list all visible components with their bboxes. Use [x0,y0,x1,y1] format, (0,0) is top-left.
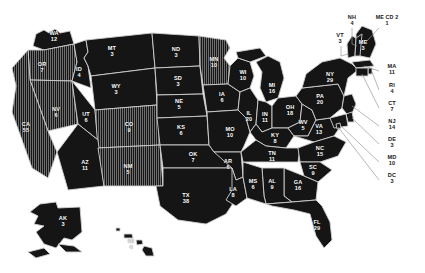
state-label-WI[interactable]: WI10 [239,70,246,82]
electoral-votes-GA: 16 [294,186,303,192]
state-label-MO[interactable]: MO10 [225,127,234,139]
state-label-WY[interactable]: WY3 [111,84,120,96]
state-label-AK[interactable]: AK3 [59,216,67,228]
state-label-ID[interactable]: ID4 [76,67,82,79]
electoral-votes-OH: 18 [286,111,295,117]
state-label-MD[interactable]: MD10 [388,155,397,167]
state-label-UT[interactable]: UT6 [82,112,90,124]
state-label-OR[interactable]: OR7 [38,62,47,74]
electoral-votes-OR: 7 [38,68,47,74]
electoral-votes-ND: 3 [172,53,180,59]
state-label-AL[interactable]: AL9 [268,179,276,191]
state-label-AR[interactable]: AR6 [224,159,232,171]
electoral-votes-AZ: 11 [81,166,89,172]
state-label-AZ[interactable]: AZ11 [81,160,89,172]
electoral-votes-ME-CD-2: 1 [376,21,399,27]
state-label-IN[interactable]: IN11 [262,112,268,124]
electoral-votes-PA: 20 [316,100,324,106]
leader-line-MD [340,125,379,162]
leader-line-NJ [352,106,379,126]
electoral-votes-OK: 7 [189,158,198,164]
electoral-votes-CA: 55 [22,128,30,134]
state-shape-CT[interactable] [356,68,368,76]
state-shape-TX[interactable] [156,168,236,224]
electoral-votes-NE: 5 [175,105,183,111]
state-label-KY[interactable]: KY8 [271,133,279,145]
state-shape-MA[interactable] [352,60,374,68]
electoral-votes-AL: 9 [268,185,276,191]
electoral-votes-MS: 6 [249,185,258,191]
state-label-VA[interactable]: VA13 [315,124,323,136]
state-label-GA[interactable]: GA16 [294,180,303,192]
state-label-WV[interactable]: WV5 [298,120,307,132]
electoral-votes-WA: 12 [49,37,58,43]
state-shape-OR[interactable] [28,44,77,81]
state-label-RI[interactable]: RI4 [389,83,395,95]
electoral-votes-MO: 10 [225,133,234,139]
electoral-votes-MA: 11 [388,70,397,76]
state-label-MT[interactable]: MT3 [108,46,116,58]
state-label-OK[interactable]: OK7 [189,152,198,164]
state-shape-HI[interactable] [116,228,154,256]
state-label-NE[interactable]: NE5 [175,99,183,111]
electoral-votes-NM: 5 [124,170,133,176]
electoral-votes-MT: 3 [108,52,116,58]
electoral-votes-KS: 6 [177,131,185,137]
electoral-votes-ME: 3 [359,46,368,52]
state-label-LA[interactable]: LA8 [229,187,237,199]
state-label-SC[interactable]: SC9 [309,165,317,177]
state-label-TX[interactable]: TX38 [182,193,189,205]
state-shape-RI[interactable] [368,68,372,74]
electoral-votes-TX: 38 [182,199,189,205]
state-label-ME-CD-2[interactable]: ME CD 21 [376,15,399,27]
state-label-ND[interactable]: ND3 [172,47,180,59]
electoral-votes-TN: 11 [268,157,276,163]
electoral-votes-SC: 9 [309,171,317,177]
electoral-votes-RI: 4 [389,89,395,95]
state-label-NH[interactable]: NH4 [348,15,356,27]
state-label-SD[interactable]: SD3 [174,76,182,88]
state-label-VT[interactable]: VT3 [336,33,343,45]
electoral-votes-CT: 7 [388,107,396,113]
electoral-votes-UT: 6 [82,118,90,124]
state-label-NY[interactable]: NY29 [326,72,334,84]
state-label-NJ[interactable]: NJ14 [388,119,395,131]
electoral-votes-AR: 6 [224,165,232,171]
state-label-NM[interactable]: NM5 [124,164,133,176]
electoral-votes-VT: 3 [336,39,343,45]
state-label-NV[interactable]: NV6 [52,107,60,119]
state-label-MI[interactable]: MI16 [269,83,275,95]
state-label-DE[interactable]: DE3 [388,137,396,149]
electoral-votes-NV: 6 [52,113,60,119]
state-label-ME[interactable]: ME3 [359,40,368,52]
state-shape-FL[interactable] [266,200,332,248]
electoral-votes-WY: 3 [111,90,120,96]
electoral-votes-HI: 4 [128,245,134,251]
electoral-votes-NH: 4 [348,21,356,27]
state-label-TN[interactable]: TN11 [268,151,276,163]
electoral-votes-AK: 3 [59,222,67,228]
electoral-votes-LA: 8 [229,193,237,199]
state-label-MS[interactable]: MS6 [249,179,258,191]
electoral-votes-DE: 3 [388,143,396,149]
electoral-votes-IA: 6 [219,98,225,104]
state-label-IL[interactable]: IL20 [246,111,252,123]
state-label-WA[interactable]: WA12 [49,31,58,43]
state-label-DC[interactable]: DC3 [388,173,396,185]
state-label-PA[interactable]: PA20 [316,94,324,106]
state-label-IA[interactable]: IA6 [219,92,225,104]
state-label-CA[interactable]: CA55 [22,122,30,134]
electoral-votes-WV: 5 [298,126,307,132]
state-label-KS[interactable]: KS6 [177,125,185,137]
state-label-NC[interactable]: NC15 [316,146,324,158]
state-label-OH[interactable]: OH18 [286,105,295,117]
state-shape-AK[interactable] [28,202,82,258]
state-label-FL[interactable]: FL29 [313,220,320,232]
electoral-votes-KY: 8 [271,139,279,145]
state-label-HI[interactable]: HI4 [128,239,134,251]
state-label-CT[interactable]: CT7 [388,101,396,113]
electoral-votes-MD: 10 [388,161,397,167]
state-label-MN[interactable]: MN10 [210,57,219,69]
state-label-CO[interactable]: CO9 [125,122,134,134]
state-label-MA[interactable]: MA11 [388,64,397,76]
